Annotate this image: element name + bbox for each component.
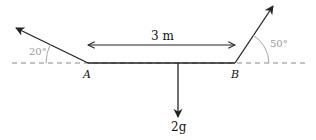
weight-label: 2g xyxy=(171,120,186,134)
force-diagram: 3 m A B 2g 20° 50° xyxy=(0,0,316,140)
point-a-label: A xyxy=(83,68,91,81)
angle-left-label: 20° xyxy=(29,46,47,57)
length-label: 3 m xyxy=(151,29,174,43)
tension-arrow-a xyxy=(16,28,88,63)
angle-right-label: 50° xyxy=(270,38,288,49)
angle-arc-right xyxy=(253,35,269,63)
point-b-label: B xyxy=(231,68,239,81)
diagram-canvas xyxy=(0,0,316,140)
